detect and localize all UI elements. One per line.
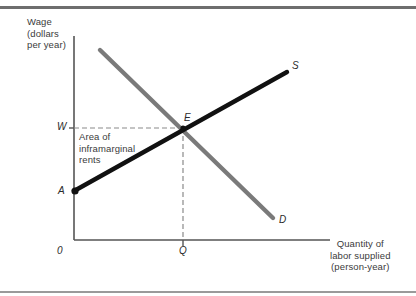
y-axis-title: Wage (dollars per year) [27,16,66,51]
origin-label: 0 [57,245,63,257]
supply-curve-label: S [292,60,299,72]
equilibrium-quantity-label: Q [179,245,187,257]
supply-intercept-label: A [58,185,65,197]
demand-curve-label: D [279,214,286,226]
equilibrium-wage-label: W [57,121,67,133]
figure-container: Wage (dollars per year) Quantity of labo… [0,0,416,296]
inframarginal-rents-annotation: Area of inframarginal rents [79,131,135,166]
point-a-marker [71,187,78,194]
point-e-marker [180,125,185,130]
x-axis-title: Quantity of labor supplied (person-year) [330,238,391,273]
equilibrium-point-label: E [184,112,191,124]
